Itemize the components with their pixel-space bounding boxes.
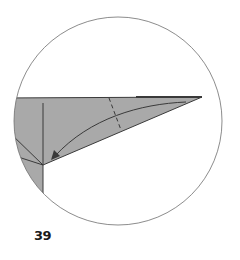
step-number: 39 [34, 228, 51, 243]
origami-diagram [0, 0, 240, 260]
paper-shape [0, 97, 202, 240]
